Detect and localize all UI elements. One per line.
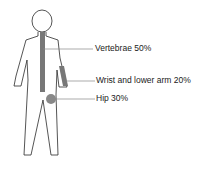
hip-label: Hip 30% [96,94,128,103]
hip-highlight [46,94,56,104]
vertebrae-highlight [40,32,45,92]
wrist-highlight [59,66,68,86]
wrist-label: Wrist and lower arm 20% [96,76,191,85]
head-outline [32,10,52,32]
body-figure [0,0,208,174]
vertebrae-label: Vertebrae 50% [95,44,151,53]
